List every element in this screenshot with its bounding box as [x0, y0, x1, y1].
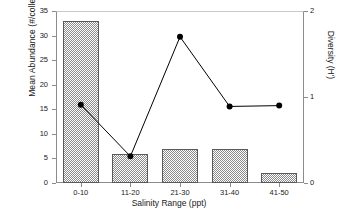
- x-axis-tick: [279, 183, 280, 187]
- x-axis-tick-label: 41-50: [259, 189, 299, 197]
- y-axis-left-tick-label: 20: [18, 81, 48, 89]
- y-axis-left-title-wrap: Mean Abundance (#/collection): [2, 30, 16, 160]
- x-axis-tick-label: 0-10: [61, 189, 101, 197]
- bar-11-20: [112, 154, 148, 183]
- x-axis-tick: [130, 183, 131, 187]
- y-axis-left-tick: [52, 109, 56, 110]
- y-axis-left-tick: [52, 11, 56, 12]
- x-axis-tick: [180, 183, 181, 187]
- x-axis-tick-label: 11-20: [110, 189, 150, 197]
- bar-0-10: [63, 21, 99, 183]
- y-axis-left-tick: [52, 36, 56, 37]
- x-axis-tick: [230, 183, 231, 187]
- y-axis-left-tick-label: 35: [18, 7, 48, 15]
- y-axis-left-tick-label: 15: [18, 105, 48, 113]
- y-axis-right-tick: [304, 183, 308, 184]
- y-axis-left-tick: [52, 60, 56, 61]
- x-axis-tick-label: 21-30: [160, 189, 200, 197]
- y-axis-left-tick-label: 25: [18, 56, 48, 64]
- y-axis-left-tick: [52, 134, 56, 135]
- y-axis-right-tick: [304, 97, 308, 98]
- y-axis-right-tick-label: 1: [310, 93, 326, 101]
- bar-21-30: [162, 149, 198, 183]
- y-axis-right-tick: [304, 11, 308, 12]
- y-axis-left-tick-label: 10: [18, 130, 48, 138]
- x-axis-title: Salinity Range (ppt): [0, 198, 338, 208]
- y-axis-right-title-wrap: Diversity (H'): [322, 48, 336, 158]
- chart-figure: Mean Abundance (#/collection) Diversity …: [0, 0, 338, 214]
- x-axis-tick: [81, 183, 82, 187]
- y-axis-left-tick-label: 30: [18, 32, 48, 40]
- y-axis-left-tick: [52, 158, 56, 159]
- y-axis-left-tick-label: 0: [18, 179, 48, 187]
- bar-31-40: [212, 149, 248, 183]
- y-axis-right-tick-label: 2: [310, 7, 326, 15]
- y-axis-left-tick-label: 5: [18, 154, 48, 162]
- y-axis-left-tick: [52, 183, 56, 184]
- x-axis-tick-label: 31-40: [210, 189, 250, 197]
- y-axis-right-tick-label: 0: [310, 179, 326, 187]
- y-axis-left-tick: [52, 85, 56, 86]
- bar-41-50: [261, 173, 297, 183]
